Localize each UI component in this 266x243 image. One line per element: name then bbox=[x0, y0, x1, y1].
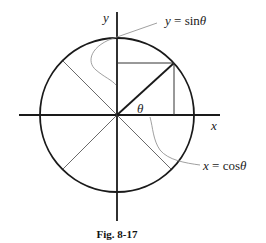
x-axis-label: x bbox=[210, 118, 217, 133]
cos-annotation-fn: cos bbox=[223, 158, 240, 173]
unit-circle-diagram: y x θ y = sinθ x = cosθ Fig. 8-17 bbox=[0, 0, 266, 243]
cos-annotation-arg: θ bbox=[240, 158, 247, 173]
y-axis-label: y bbox=[101, 10, 109, 25]
sin-annotation-fn: sin bbox=[185, 13, 201, 28]
sin-annotation-arg: θ bbox=[200, 13, 207, 28]
sin-annotation: y = sinθ bbox=[163, 13, 207, 28]
cos-leader-curve bbox=[150, 117, 200, 165]
figure-caption: Fig. 8-17 bbox=[97, 228, 138, 240]
theta-label: θ bbox=[137, 101, 144, 116]
radius-lower-right bbox=[117, 115, 171, 169]
radius-lower-left bbox=[63, 115, 117, 169]
sin-annotation-eq: = bbox=[171, 13, 185, 28]
cos-annotation-eq: = bbox=[209, 158, 223, 173]
radius-theta bbox=[117, 63, 174, 115]
cos-annotation: x = cosθ bbox=[202, 158, 247, 173]
radius-upper-left bbox=[63, 61, 117, 115]
sin-leader-curve bbox=[91, 23, 157, 85]
